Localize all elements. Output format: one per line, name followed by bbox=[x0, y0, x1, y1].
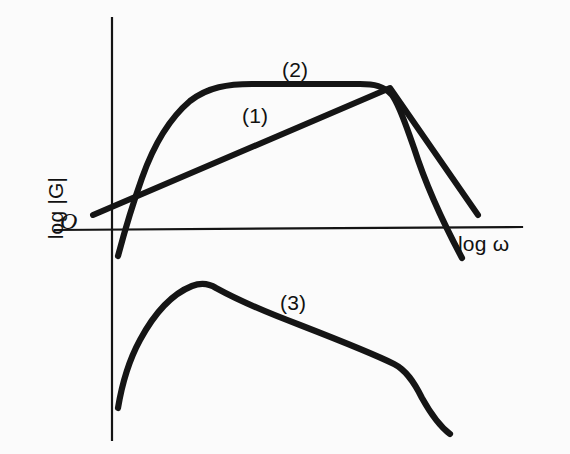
curve-label-1: (1) bbox=[242, 104, 268, 128]
x-axis-label: log ω bbox=[458, 232, 509, 256]
origin-label: O bbox=[60, 208, 78, 235]
figure-bode-magnitude-plot: (1) (2) (3) log |G| log ω O bbox=[0, 0, 570, 454]
curve-label-3: (3) bbox=[280, 291, 306, 315]
curve-series-2 bbox=[118, 84, 462, 258]
curve-label-2: (2) bbox=[282, 58, 308, 82]
